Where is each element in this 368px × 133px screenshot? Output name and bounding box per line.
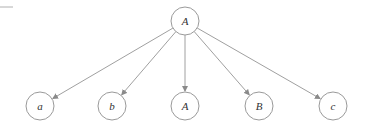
edges-group [53, 28, 320, 99]
child-node: b [98, 92, 126, 120]
child-node: c [319, 92, 347, 120]
edge-root-to-c4 [194, 32, 249, 95]
edge-root-to-c5 [197, 28, 320, 99]
node-label: a [37, 100, 43, 112]
nodes-group: AabABc [26, 7, 347, 120]
node-label: c [331, 100, 336, 112]
child-node: A [171, 92, 199, 120]
node-label: A [181, 100, 189, 112]
node-label: A [181, 15, 189, 27]
edge-root-to-c2 [122, 32, 176, 95]
child-node: a [26, 92, 54, 120]
root-node: A [171, 7, 199, 35]
node-label: B [256, 100, 263, 112]
node-label: b [109, 100, 115, 112]
edge-root-to-c1 [53, 28, 173, 98]
tree-diagram: AabABc [0, 0, 368, 133]
child-node: B [245, 92, 273, 120]
